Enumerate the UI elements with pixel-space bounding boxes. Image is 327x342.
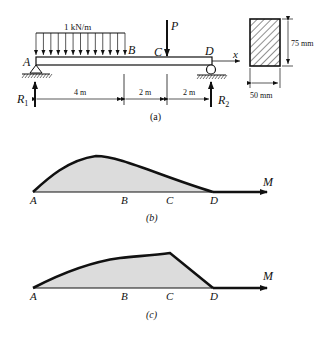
caption-b: (b): [146, 212, 158, 224]
ground-hatch: [206, 75, 209, 79]
load-label: 1 kN/m: [64, 22, 91, 32]
ground-hatch: [31, 74, 34, 78]
ground-hatch: [37, 74, 40, 78]
ground-hatch: [28, 74, 31, 78]
reaction-r2-label: R2: [217, 93, 229, 109]
point-load-label: P: [170, 19, 179, 33]
ground-hatch: [197, 75, 200, 79]
ground-hatch: [200, 75, 203, 79]
ground-hatch: [46, 74, 49, 78]
moment-axis-label-b: M: [262, 175, 274, 189]
span-cd-label: 2 m: [183, 88, 196, 97]
ground-hatch: [215, 75, 218, 79]
span-ab-label: 4 m: [74, 88, 87, 97]
ground-hatch: [40, 74, 43, 78]
point-c-label-b: C: [166, 194, 174, 206]
ground-hatch: [209, 75, 212, 79]
point-d-label: D: [204, 44, 214, 58]
caption-a: (a): [150, 111, 161, 123]
distributed-load: 1 kN/m: [36, 22, 125, 55]
point-d-label-c: D: [209, 290, 218, 302]
section-height-label: 75 mm: [291, 39, 314, 48]
x-axis-label: x: [232, 48, 238, 60]
span-dimensions: 4 m 2 m 2 m: [37, 74, 209, 105]
point-a-label-b: A: [29, 194, 37, 206]
point-c-label: C: [154, 45, 163, 59]
caption-c: (c): [146, 309, 158, 321]
point-a-label-c: A: [29, 290, 37, 302]
point-d-label-b: D: [209, 194, 218, 206]
point-b-label: B: [128, 43, 136, 57]
section-rect: [250, 19, 280, 66]
beam-diagram: 1 kN/m x P A B C D R1 R2: [0, 0, 327, 342]
span-bc-label: 2 m: [139, 88, 152, 97]
ground-hatch: [43, 74, 46, 78]
ground-hatch: [49, 74, 52, 78]
ground-hatch: [34, 74, 37, 78]
figure-c: M A B C D (c): [29, 253, 274, 321]
ground-hatch: [221, 75, 224, 79]
section-width-label: 50 mm: [250, 91, 273, 100]
ground-hatch: [218, 75, 221, 79]
point-c-label-c: C: [166, 290, 174, 302]
figure-b: M A B C D (b): [29, 156, 274, 224]
figure-a: 1 kN/m x P A B C D R1 R2: [16, 19, 314, 123]
ground-hatch: [203, 75, 206, 79]
roller-support: [197, 65, 227, 79]
ground-hatch: [212, 75, 215, 79]
beam: [36, 57, 212, 65]
point-b-label-b: B: [121, 194, 128, 206]
point-a-label: A: [22, 55, 31, 69]
reaction-r1-label: R1: [16, 92, 28, 108]
point-b-label-c: B: [121, 290, 128, 302]
ground-hatch: [25, 74, 28, 78]
ground-hatch: [224, 75, 227, 79]
ground-hatch: [22, 74, 25, 78]
moment-axis-label-c: M: [262, 269, 274, 283]
cross-section: 75 mm 50 mm: [250, 19, 314, 100]
